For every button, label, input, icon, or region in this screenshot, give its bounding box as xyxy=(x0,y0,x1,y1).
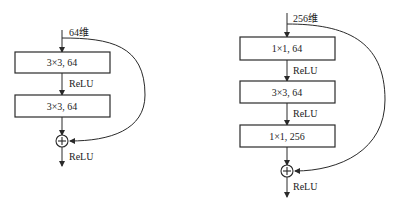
layer-label: 1×1, 64 xyxy=(272,43,303,54)
layer-box: 3×3, 64 xyxy=(240,81,335,103)
layer-box: 3×3, 64 xyxy=(15,95,110,117)
activation-label: ReLU xyxy=(293,65,318,76)
basic-block-diagram: 64维 3×3, 64 ReLU 3×3, 64 ReLU xyxy=(15,26,145,166)
add-node-icon xyxy=(56,135,68,147)
activation-label: ReLU xyxy=(293,181,318,192)
input-dimension-label: 64维 xyxy=(69,26,89,38)
input-dimension-label: 256维 xyxy=(293,12,318,24)
layer-label: 3×3, 64 xyxy=(47,57,78,68)
layer-box: 1×1, 64 xyxy=(240,37,335,60)
activation-label: ReLU xyxy=(69,151,94,162)
layer-label: 1×1, 256 xyxy=(269,131,305,142)
layer-box: 3×3, 64 xyxy=(15,52,110,73)
layer-label: 3×3, 64 xyxy=(47,101,78,112)
activation-label: ReLU xyxy=(293,108,318,119)
layer-label: 3×3, 64 xyxy=(272,87,303,98)
layer-box: 1×1, 256 xyxy=(240,125,335,147)
add-node-icon xyxy=(281,165,293,177)
bottleneck-block-diagram: 256维 1×1, 64 ReLU 3×3, 64 ReLU 1×1, 256 … xyxy=(240,12,385,197)
activation-label: ReLU xyxy=(69,78,94,89)
